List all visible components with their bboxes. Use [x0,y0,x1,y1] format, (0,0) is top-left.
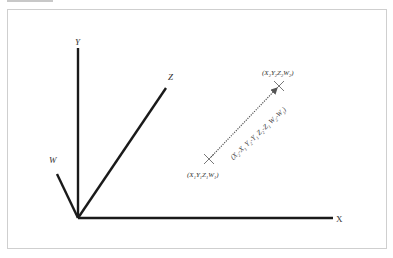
y-axis-label: Y [75,37,81,47]
w-axis [57,174,78,218]
point-1-marker [204,154,214,164]
vector-label: (X2-X1 Y2-Y1 Z2-Z1 W2-W1) [229,105,289,162]
z-axis-label: Z [168,72,174,82]
point-2-label: (X2Y2Z2W2) [262,69,294,78]
diagram-canvas: Y Z W X (X2Y2Z2W2) (X1Y1Z1W1) (X2-X1 Y2-… [0,0,393,258]
point-2-marker [274,81,284,91]
point-1-label: (X1Y1Z1W1) [187,171,219,180]
w-axis-label: W [49,155,58,165]
z-axis [78,88,166,218]
x-axis-label: X [336,214,343,224]
